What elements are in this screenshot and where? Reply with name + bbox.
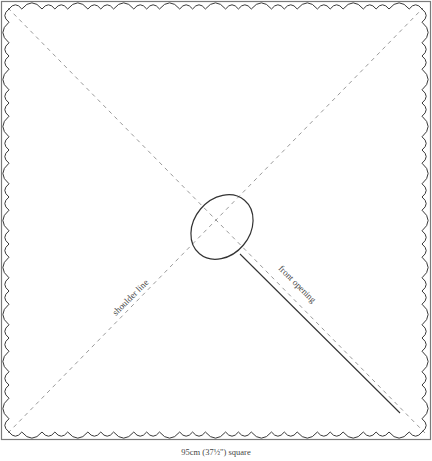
front-opening-cut bbox=[240, 254, 400, 413]
neck-opening bbox=[178, 182, 266, 272]
pattern-diagram: shoulder line front opening 95cm (37½") … bbox=[0, 0, 432, 461]
caption: 95cm (37½") square bbox=[181, 447, 251, 457]
shoulder-line-label: shoulder line bbox=[110, 277, 150, 317]
front-opening-label: front opening bbox=[277, 263, 319, 305]
